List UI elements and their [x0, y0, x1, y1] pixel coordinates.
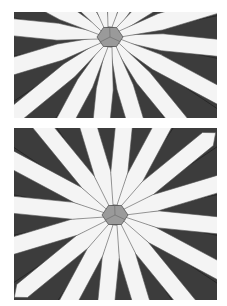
daisy-illustration-bottom [14, 128, 217, 300]
daisy-block-top [14, 12, 217, 118]
daisy-illustration-top [14, 12, 217, 118]
daisy-block-bottom [14, 128, 217, 300]
